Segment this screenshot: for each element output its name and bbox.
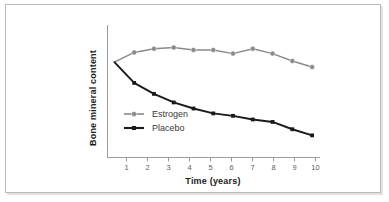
- x-tick-label-7: 7: [250, 163, 254, 172]
- x-tick-label-6: 6: [229, 163, 233, 172]
- chart-legend: EstrogenPlacebo: [124, 109, 188, 133]
- data-point: [171, 45, 176, 50]
- data-point: [211, 112, 215, 116]
- data-point: [271, 120, 275, 124]
- data-point: [270, 51, 275, 56]
- legend-item-estrogen: Estrogen: [124, 109, 188, 119]
- x-tick-label-5: 5: [208, 163, 212, 172]
- legend-swatch-marker: [131, 111, 136, 116]
- data-point: [191, 47, 196, 52]
- x-tick-label-9: 9: [292, 163, 296, 172]
- x-axis-title: Time (years): [185, 176, 240, 186]
- data-point: [310, 133, 314, 137]
- data-point: [172, 101, 176, 105]
- series-estrogen: [114, 45, 314, 70]
- data-point: [152, 92, 156, 96]
- y-axis-title-group: Bone mineral content: [88, 50, 98, 146]
- x-axis-tick-labels: 1 2 3 4 5 6 7 8 9 10: [124, 163, 319, 172]
- data-point: [211, 47, 216, 52]
- data-point: [132, 81, 136, 85]
- data-point: [251, 118, 255, 122]
- data-point: [132, 50, 137, 55]
- data-point: [192, 107, 196, 111]
- legend-label: Estrogen: [152, 109, 188, 119]
- x-tick-label-2: 2: [145, 163, 149, 172]
- x-tick-label-10: 10: [311, 163, 319, 172]
- data-point: [290, 58, 295, 63]
- x-tick-label-8: 8: [271, 163, 275, 172]
- data-point: [151, 46, 156, 51]
- legend-item-placebo: Placebo: [124, 123, 185, 133]
- legend-swatch-marker: [132, 126, 136, 130]
- line-chart: Bone mineral content 1 2: [0, 0, 389, 202]
- series-layer: [114, 45, 314, 137]
- x-tick-label-1: 1: [124, 163, 128, 172]
- series-placebo: [114, 62, 314, 137]
- x-tick-label-4: 4: [187, 163, 191, 172]
- data-point: [250, 46, 255, 51]
- data-point: [310, 65, 315, 70]
- data-point: [231, 51, 236, 56]
- x-axis-ticks: [127, 158, 316, 162]
- chart-figure: Bone mineral content 1 2: [0, 0, 389, 202]
- screenshot-root: Bone mineral content 1 2: [0, 0, 389, 202]
- data-point: [231, 114, 235, 118]
- data-point: [290, 127, 294, 131]
- series-line: [114, 62, 312, 135]
- x-tick-label-3: 3: [166, 163, 170, 172]
- y-axis-title: Bone mineral content: [88, 50, 98, 146]
- legend-label: Placebo: [152, 123, 185, 133]
